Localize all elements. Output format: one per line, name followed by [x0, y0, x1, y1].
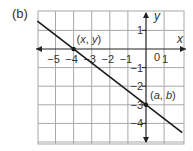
point-label: (a, b): [150, 89, 176, 101]
point-marker: [71, 47, 75, 51]
y-tick-label: 1: [137, 24, 143, 36]
x-axis-arrow-left-icon: [36, 46, 42, 52]
y-axis-label: y: [153, 9, 161, 23]
x-tick-label: −4: [65, 53, 78, 65]
y-axis-arrow-up-icon: [143, 12, 149, 18]
x-tick-label: 1: [162, 53, 168, 65]
y-tick-label: −1: [130, 62, 143, 74]
point-label: (x, y): [77, 33, 101, 45]
point-marker: [144, 103, 148, 107]
x-tick-label: −2: [102, 53, 115, 65]
points: (x, y)(a, b): [71, 33, 175, 107]
y-tick-label: −4: [130, 117, 143, 129]
y-tick-label: −2: [130, 80, 143, 92]
tick-labels: −5−4−3−2−1101−1−2−3−4: [47, 24, 168, 129]
x-tick-label: −5: [47, 53, 60, 65]
coordinate-graph: xy −5−4−3−2−1101−1−2−3−4 (x, y)(a, b): [0, 0, 193, 151]
x-axis-arrow-right-icon: [180, 46, 186, 52]
x-axis-label: x: [176, 32, 184, 46]
origin-label: 0: [154, 51, 160, 63]
